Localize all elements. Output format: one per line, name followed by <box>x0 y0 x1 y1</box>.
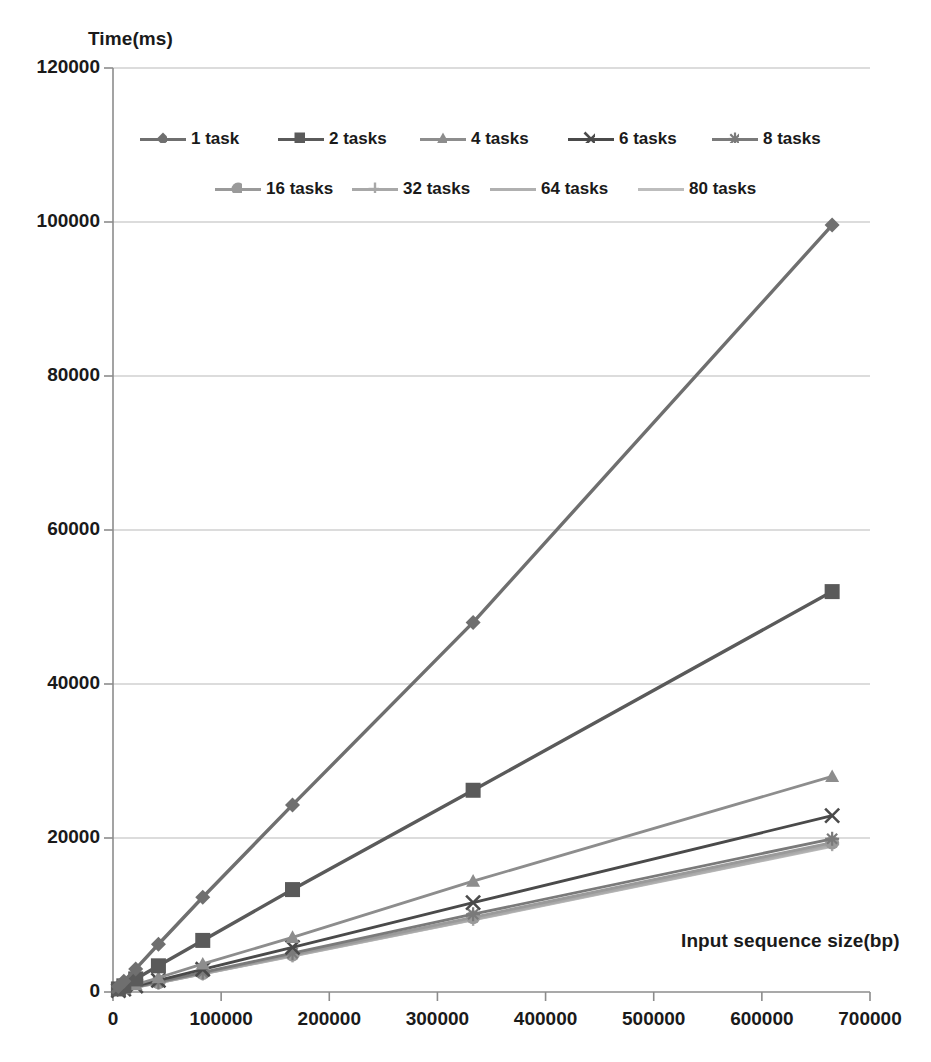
legend-marker-plus-icon <box>366 180 379 193</box>
legend-item-64-tasks[interactable]: 64 tasks <box>490 178 608 200</box>
legend-marker-star-icon <box>726 130 739 143</box>
y-tick-label: 40000 <box>0 672 100 694</box>
x-tick-label: 0 <box>53 1008 173 1030</box>
chart-container: Time(ms) Input sequence size(bp) 0200004… <box>0 0 931 1062</box>
legend-item-32-tasks[interactable]: 32 tasks <box>352 178 470 200</box>
plot-area <box>0 0 931 1062</box>
series-2-tasks <box>111 584 840 996</box>
data-point-marker-square <box>195 933 210 948</box>
data-point-marker-triangle <box>437 133 448 144</box>
legend-swatch-circle-icon <box>215 180 261 198</box>
legend-label: 1 task <box>191 129 239 149</box>
data-point-marker-circle <box>232 183 243 194</box>
legend-label: 6 tasks <box>619 129 677 149</box>
x-tick-label: 600000 <box>702 1008 822 1030</box>
legend-item-1-task[interactable]: 1 task <box>140 128 239 150</box>
x-tick-label: 400000 <box>486 1008 606 1030</box>
legend-swatch-diamond-icon <box>140 130 186 148</box>
x-tick-label: 500000 <box>594 1008 714 1030</box>
data-point-marker-x <box>585 133 596 144</box>
data-point-marker-plus <box>369 183 380 194</box>
legend-marker-square-icon <box>292 130 305 143</box>
data-point-marker-square <box>466 783 481 798</box>
x-tick-label: 200000 <box>269 1008 389 1030</box>
x-tick-label: 300000 <box>377 1008 497 1030</box>
legend-label: 80 tasks <box>689 179 756 199</box>
data-point-marker-square <box>825 584 840 599</box>
legend-marker-x-icon <box>582 130 595 143</box>
data-point-marker-star <box>729 133 740 144</box>
x-tick-label: 700000 <box>810 1008 930 1030</box>
legend-item-4-tasks[interactable]: 4 tasks <box>420 128 529 150</box>
data-point-marker-diamond <box>157 133 168 144</box>
legend-item-2-tasks[interactable]: 2 tasks <box>278 128 387 150</box>
x-tick-label: 100000 <box>161 1008 281 1030</box>
legend-swatch-triangle-icon <box>420 130 466 148</box>
legend-item-16-tasks[interactable]: 16 tasks <box>215 178 333 200</box>
legend-swatch-line-icon <box>490 180 536 198</box>
y-tick-label: 100000 <box>0 210 100 232</box>
legend-marker-diamond-icon <box>154 130 167 143</box>
series-1-task <box>111 218 840 995</box>
legend-swatch-plus-icon <box>352 180 398 198</box>
legend-item-6-tasks[interactable]: 6 tasks <box>568 128 677 150</box>
y-tick-label: 0 <box>0 980 100 1002</box>
y-tick-label: 20000 <box>0 826 100 848</box>
data-point-marker-square <box>285 882 300 897</box>
legend-label: 2 tasks <box>329 129 387 149</box>
y-tick-label: 60000 <box>0 518 100 540</box>
legend-swatch-square-icon <box>278 130 324 148</box>
legend-swatch-x-icon <box>568 130 614 148</box>
legend-label: 8 tasks <box>763 129 821 149</box>
legend-item-8-tasks[interactable]: 8 tasks <box>712 128 821 150</box>
y-tick-label: 80000 <box>0 364 100 386</box>
legend-item-80-tasks[interactable]: 80 tasks <box>638 178 756 200</box>
legend-swatch-line-icon <box>638 180 684 198</box>
legend-label: 32 tasks <box>403 179 470 199</box>
data-point-marker-star <box>825 832 839 846</box>
legend-line <box>490 188 536 191</box>
data-point-marker-square <box>295 133 306 144</box>
legend-line <box>638 188 684 191</box>
series-4-tasks <box>111 769 839 996</box>
data-point-marker-square <box>151 958 166 973</box>
legend-marker-triangle-icon <box>434 130 447 143</box>
legend-label: 64 tasks <box>541 179 608 199</box>
legend-marker-circle-icon <box>229 180 242 193</box>
series-8-tasks <box>113 832 839 992</box>
data-point-marker-triangle <box>825 769 839 782</box>
y-tick-label: 120000 <box>0 56 100 78</box>
legend-label: 4 tasks <box>471 129 529 149</box>
legend-label: 16 tasks <box>266 179 333 199</box>
legend-swatch-star-icon <box>712 130 758 148</box>
